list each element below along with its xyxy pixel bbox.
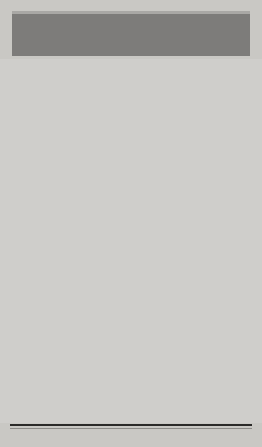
plot-area xyxy=(54,84,221,395)
figure-container xyxy=(0,0,262,447)
figure-header-highlight xyxy=(12,11,250,14)
figure-header-band xyxy=(12,11,250,56)
x-axis-ticks xyxy=(54,398,221,410)
figure-bottom-rule xyxy=(10,424,252,426)
y-axis-ticks xyxy=(22,84,51,395)
figure-bottom-rule-light xyxy=(10,428,252,429)
chart-svg xyxy=(54,84,221,395)
